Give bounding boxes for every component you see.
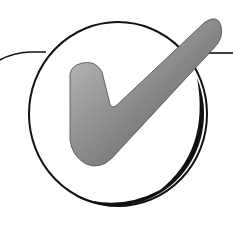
checkmark-icon — [0, 0, 233, 230]
checkmark-circle-graphic — [0, 0, 233, 230]
left-line — [0, 52, 46, 60]
